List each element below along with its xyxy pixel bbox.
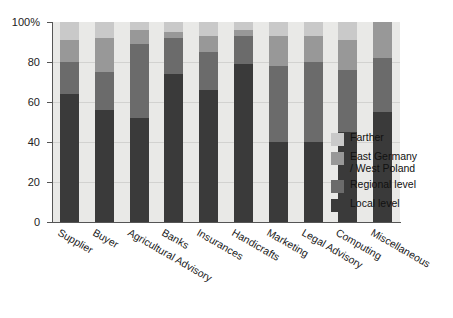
legend-item: Farther [331,132,449,146]
legend-swatch [331,199,344,212]
legend-label: East Germany / West Poland [350,151,417,174]
legend-label: Local level [350,198,400,210]
legend-item: East Germany / West Poland [331,151,449,174]
legend-label: Farther [350,132,384,144]
legend-swatch [331,133,344,146]
legend-swatch [331,180,344,193]
legend: FartherEast Germany / West PolandRegiona… [331,132,449,217]
legend-item: Regional level [331,179,449,193]
legend-item: Local level [331,198,449,212]
legend-label: Regional level [350,179,416,191]
legend-swatch [331,152,344,165]
stacked-bar-chart: 020406080100% SupplierBuyerAgricultural … [0,0,453,318]
x-axis-label: Supplier [56,226,95,256]
